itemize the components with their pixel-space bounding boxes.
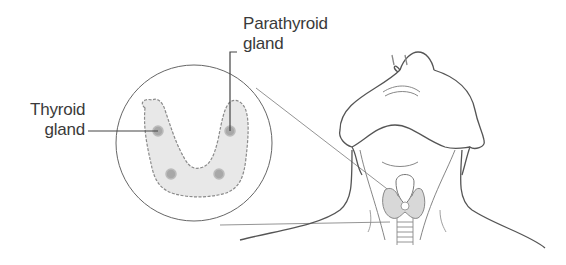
thyroid-on-neck [383, 175, 425, 219]
parathyroid-gland-label: Parathyroid gland [243, 14, 328, 54]
thyroid-label-line1: Thyroid [30, 100, 85, 120]
thyroid-gland-label: Thyroid gland [30, 100, 85, 140]
parathyroid-dot-lower-right [214, 169, 224, 179]
thyroid-diagram: Thyroid gland Parathyroid gland [0, 0, 566, 265]
thyroid-label-line2: gland [30, 120, 85, 140]
magnifier-circle [116, 65, 272, 221]
zoom-connector-top [256, 88, 395, 195]
parathyroid-label-line1: Parathyroid [243, 14, 328, 34]
parathyroid-label-line2: gland [243, 34, 328, 54]
parathyroid-dot-lower-left [166, 169, 176, 179]
trachea [397, 218, 413, 245]
